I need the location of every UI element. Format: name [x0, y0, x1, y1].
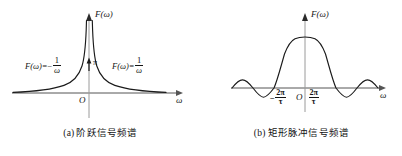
left-equation-prefix: F(ω)=	[25, 61, 48, 71]
caption-text-b: 矩形脉冲信号频谱	[268, 127, 350, 138]
negative-zero-fraction: 2πτ	[275, 89, 285, 107]
panel-rectangular-pulse-spectrum: F(ω) ω O −2πτ 2πτ (b)矩形脉冲信号频谱	[201, 0, 402, 156]
curve-left-branch	[13, 21, 87, 93]
caption-tag-b: (b)	[254, 128, 266, 138]
y-axis-label: F(ω)	[95, 10, 113, 19]
pi-label: π	[93, 58, 97, 67]
negative-zero-minus: −	[270, 93, 275, 103]
curve-right-branch	[92, 21, 166, 93]
positive-first-zero-label: 2πτ	[308, 90, 319, 108]
x-axis-label: ω	[176, 96, 182, 105]
panel-step-signal-spectrum: F(ω) ω O π F(ω)=−1ω F(ω)=1ω (a)阶跃信号频谱	[0, 0, 201, 156]
y-axis-arrow	[302, 13, 308, 21]
y-axis-label: F(ω)	[311, 10, 329, 19]
origin-label: O	[296, 93, 303, 102]
negative-first-zero-label: −2πτ	[270, 90, 286, 108]
negative-zero-denominator: τ	[275, 98, 285, 106]
figure-root: F(ω) ω O π F(ω)=−1ω F(ω)=1ω (a)阶跃信号频谱	[0, 0, 402, 156]
right-equation-denominator: ω	[135, 66, 143, 75]
left-equation-minus: −	[48, 61, 53, 71]
origin-label: O	[79, 96, 86, 105]
right-equation-prefix: F(ω)=	[112, 61, 135, 71]
left-equation-denominator: ω	[53, 66, 61, 75]
caption-panel-a: (a)阶跃信号频谱	[0, 126, 201, 140]
left-branch-equation: F(ω)=−1ω	[25, 58, 61, 77]
right-branch-equation: F(ω)=1ω	[112, 58, 144, 77]
caption-tag-a: (a)	[63, 128, 74, 138]
rectangular-pulse-plot	[201, 0, 402, 126]
left-equation-fraction: 1ω	[53, 56, 61, 75]
x-axis-label: ω	[380, 91, 386, 100]
caption-text-a: 阶跃信号频谱	[76, 127, 137, 138]
caption-panel-b: (b)矩形脉冲信号频谱	[201, 126, 402, 140]
right-equation-fraction: 1ω	[135, 56, 143, 75]
pi-impulse-marker	[87, 58, 92, 72]
positive-zero-fraction: 2πτ	[309, 89, 319, 107]
positive-zero-denominator: τ	[309, 98, 319, 106]
y-axis-arrow	[86, 13, 92, 21]
